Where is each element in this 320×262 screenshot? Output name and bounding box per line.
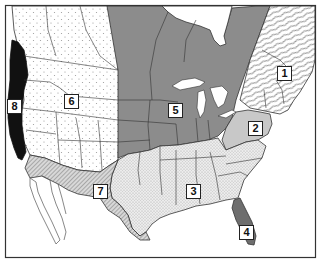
region-label-5: 5 [168, 103, 183, 118]
region-6-area [12, 6, 120, 172]
region-label-8: 8 [7, 99, 22, 114]
region-label-7: 7 [93, 184, 108, 199]
region-label-4: 4 [239, 225, 254, 240]
region-label-3: 3 [186, 184, 201, 199]
region-label-2: 2 [248, 121, 263, 136]
region-map [0, 0, 320, 262]
region-label-6: 6 [64, 94, 79, 109]
region-label-1: 1 [277, 66, 292, 81]
